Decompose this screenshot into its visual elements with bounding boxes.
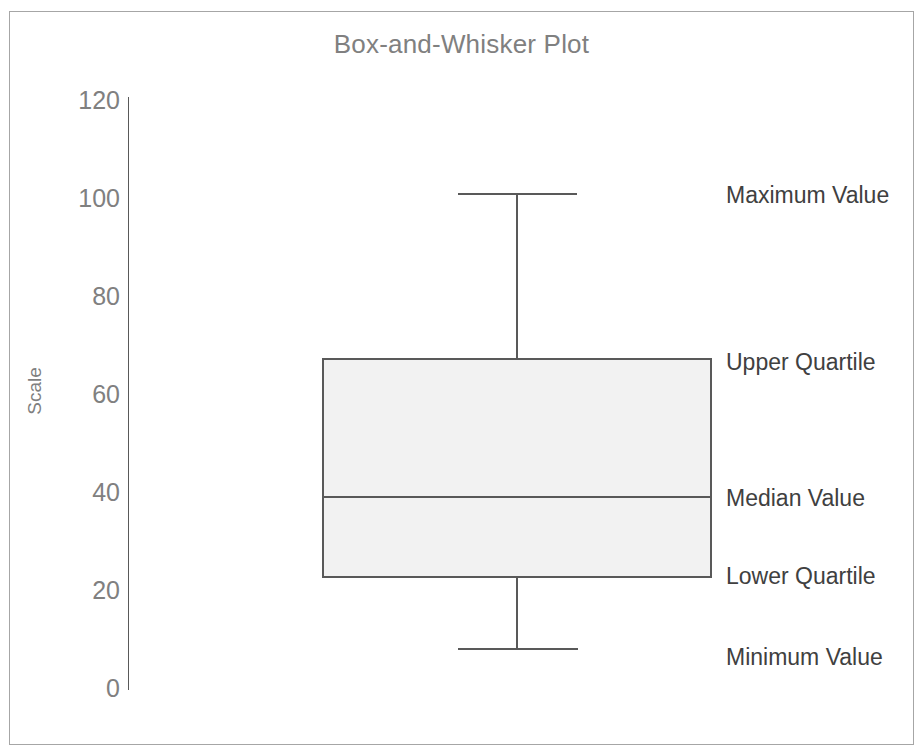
y-axis-line xyxy=(128,97,129,690)
box-interquartile-range xyxy=(322,358,712,578)
whisker-upper-stem xyxy=(516,194,518,359)
annotation-maximum-value: Maximum Value xyxy=(726,184,889,207)
y-tick-label: 80 xyxy=(2,284,120,309)
y-tick-label: 40 xyxy=(2,480,120,505)
y-tick-label: 20 xyxy=(2,578,120,603)
whisker-lower-stem xyxy=(516,577,518,650)
y-tick-label: 60 xyxy=(2,382,120,407)
annotation-lower-quartile: Lower Quartile xyxy=(726,565,876,588)
median-line xyxy=(322,496,712,498)
annotation-median-value: Median Value xyxy=(726,487,865,510)
y-tick-label: 0 xyxy=(2,676,120,701)
y-tick-label: 120 xyxy=(2,88,120,113)
plot-area: Scale 120 100 80 60 40 20 0 Maximum xyxy=(0,0,923,753)
y-tick-label: 100 xyxy=(2,186,120,211)
chart-canvas: Box-and-Whisker Plot Scale 120 100 80 60… xyxy=(0,0,923,753)
whisker-lower-cap xyxy=(458,648,578,650)
annotation-minimum-value: Minimum Value xyxy=(726,646,883,669)
annotation-upper-quartile: Upper Quartile xyxy=(726,351,876,374)
